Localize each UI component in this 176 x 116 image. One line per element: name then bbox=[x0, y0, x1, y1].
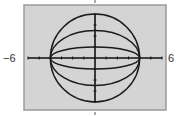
x-max-label: 6 bbox=[168, 52, 174, 64]
graph-window: −6 6 bbox=[0, 0, 176, 116]
x-min-label: −6 bbox=[3, 52, 16, 64]
